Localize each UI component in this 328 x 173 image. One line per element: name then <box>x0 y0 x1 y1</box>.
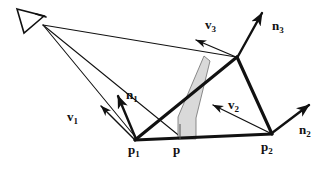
label-n3: n3 <box>272 19 284 32</box>
label-p1: p1 <box>128 143 140 156</box>
label-n2: n2 <box>299 123 311 136</box>
label-n1: n1 <box>126 88 138 101</box>
label-p2: p2 <box>261 140 273 153</box>
viewing-geometry-diagram: v1 v2 v3 n1 n2 n3 p1 p2 p <box>0 0 328 173</box>
ray-eye-to-p <box>43 25 182 138</box>
label-v3: v3 <box>205 18 216 31</box>
label-p: p <box>173 143 180 156</box>
vector-v3 <box>196 40 236 57</box>
triangle-edge-p2-p1 <box>135 134 272 140</box>
label-v1: v1 <box>67 110 78 123</box>
sliver-polygon <box>178 56 210 139</box>
ray-eye-to-p1 <box>43 25 137 139</box>
triangle-edge-p3-p2 <box>237 57 272 134</box>
label-v2: v2 <box>228 98 239 111</box>
vector-n3 <box>237 13 262 58</box>
viewpoint-eye-icon <box>17 9 46 33</box>
